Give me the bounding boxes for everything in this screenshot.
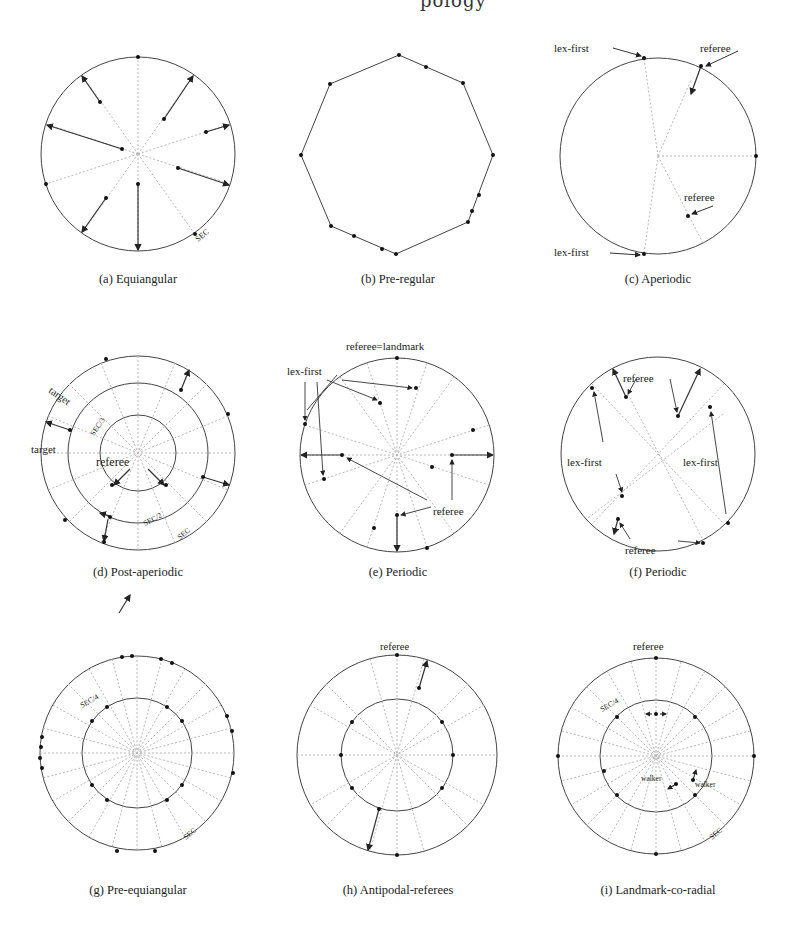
- caption-e: (e) Periodic: [268, 565, 528, 580]
- referee-label: referee: [96, 455, 129, 469]
- panel-equiangular: SEC (a) Equiangular: [8, 40, 268, 320]
- sec4-label: SEC/4: [599, 696, 621, 714]
- caption-a: (a) Equiangular: [8, 272, 268, 287]
- caption-h: (h) Antipodal-referees: [268, 883, 528, 898]
- sec-label: SEC: [194, 227, 211, 243]
- caption-d: (d) Post-aperiodic: [8, 565, 268, 580]
- target-label-2: target: [31, 443, 56, 455]
- lex-first-label-left: lex-first: [567, 456, 602, 468]
- referee-label-top: referee: [700, 42, 731, 54]
- sec2-label: SEC/2: [142, 511, 164, 528]
- antipodal-referees-diagram: referee: [268, 640, 528, 870]
- caption-c: (c) Aperiodic: [528, 272, 788, 287]
- referee-label-inner: referee: [684, 191, 715, 203]
- referee-label: referee: [633, 640, 664, 652]
- referee-label-bottom: referee: [625, 544, 656, 556]
- referee-label: referee: [433, 505, 464, 517]
- lex-first-label-right: lex-first: [683, 456, 718, 468]
- sec-label: SEC: [708, 826, 724, 842]
- panel-pre-regular: (b) Pre-regular: [268, 40, 528, 320]
- caption-b: (b) Pre-regular: [268, 272, 528, 287]
- panel-periodic-e: referee=landmark lex-first referee (e) P…: [268, 330, 528, 610]
- caption-i: (i) Landmark-co-radial: [528, 883, 788, 898]
- panel-aperiodic: lex-first referee referee lex-first (c) …: [528, 40, 788, 320]
- post-aperiodic-diagram: target target SEC/3 referee SEC/2 SEC: [8, 330, 268, 560]
- caption-f: (f) Periodic: [528, 565, 788, 580]
- pre-equiangular-diagram: SEC/4 SEC: [8, 640, 268, 870]
- cut-off-page-heading: pology: [420, 0, 487, 11]
- panel-periodic-f: referee lex-first lex-first referee (f) …: [528, 330, 788, 610]
- referee-label-top: referee: [623, 372, 654, 384]
- walker-label-2: walker: [695, 780, 716, 789]
- sec4-label: SEC/4: [79, 692, 101, 710]
- periodic-f-diagram: referee lex-first lex-first referee: [528, 330, 788, 560]
- referee-label: referee: [380, 641, 409, 652]
- sec-label: SEC: [182, 826, 198, 842]
- panel-post-aperiodic: target target SEC/3 referee SEC/2 SEC (d…: [8, 330, 268, 610]
- sec-label: SEC: [176, 526, 192, 542]
- pre-regular-diagram: [268, 40, 528, 270]
- walker-label-1: walker: [641, 774, 662, 783]
- panel-landmark-co-radial: referee SEC/4 walker walker SEC (i) Land…: [528, 640, 788, 920]
- caption-g: (g) Pre-equiangular: [8, 883, 268, 898]
- lex-first-label: lex-first: [287, 365, 322, 377]
- panel-pre-equiangular: SEC/4 SEC (g) Pre-equiangular: [8, 640, 268, 920]
- landmark-co-radial-diagram: referee SEC/4 walker walker SEC: [528, 640, 788, 870]
- referee-landmark-label: referee=landmark: [346, 340, 425, 352]
- aperiodic-diagram: lex-first referee referee lex-first: [528, 40, 788, 270]
- periodic-e-diagram: referee=landmark lex-first referee: [268, 330, 528, 560]
- lex-first-label-bottom: lex-first: [554, 246, 589, 258]
- equiangular-diagram: SEC: [8, 40, 268, 270]
- lex-first-label-top: lex-first: [554, 42, 589, 54]
- target-label-1: target: [47, 385, 73, 408]
- panel-antipodal-referees: referee (h) Antipodal-referees: [268, 640, 528, 920]
